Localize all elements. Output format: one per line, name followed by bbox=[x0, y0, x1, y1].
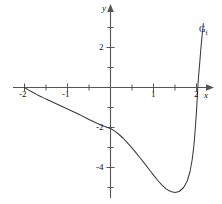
y-tick-label-2: 2 bbox=[99, 43, 104, 52]
plot-canvas bbox=[0, 0, 222, 204]
curve-name-label: Gf bbox=[199, 25, 208, 36]
x-tick-label-neg2: -2 bbox=[19, 90, 27, 99]
x-tick-label-1: 1 bbox=[151, 90, 156, 99]
curve-name-subscript: f bbox=[206, 29, 208, 36]
x-tick-label-neg1: -1 bbox=[62, 90, 70, 99]
x-axis-name-label: x bbox=[204, 91, 208, 100]
function-plot: -2 -1 1 2 2 -2 -4 x y Gf bbox=[0, 0, 222, 204]
y-axis-name-label: y bbox=[102, 4, 106, 13]
y-tick-label-neg4: -4 bbox=[96, 163, 104, 172]
y-tick-label-neg2: -2 bbox=[96, 123, 104, 132]
x-tick-label-2: 2 bbox=[194, 90, 199, 99]
y-axis-arrowhead bbox=[107, 4, 114, 12]
axes-group bbox=[13, 4, 214, 198]
